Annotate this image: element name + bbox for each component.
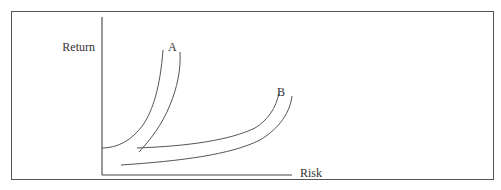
indifference-curves-plot bbox=[0, 0, 501, 190]
curve-a-outer bbox=[139, 52, 180, 152]
curve-pair-a bbox=[102, 50, 180, 152]
curve-pair-b bbox=[121, 93, 292, 165]
curve-b-outer bbox=[121, 96, 292, 165]
curve-label-a: A bbox=[168, 40, 177, 54]
curve-label-b: B bbox=[277, 85, 285, 99]
axes bbox=[102, 17, 292, 175]
x-axis-label: Risk bbox=[300, 166, 322, 180]
y-axis-label: Return bbox=[62, 40, 95, 54]
clipped-caption-bottom bbox=[0, 186, 501, 190]
curve-b-inner bbox=[137, 93, 279, 148]
